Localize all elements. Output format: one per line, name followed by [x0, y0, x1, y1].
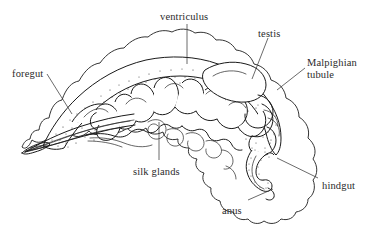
label-anus: anus [222, 205, 242, 217]
label-hindgut: hindgut [322, 180, 355, 192]
anatomy-figure: ventriculus testis Malpighian tubule for… [0, 0, 385, 229]
label-foregut: foregut [12, 68, 43, 80]
label-malpighian-tubule: Malpighian tubule [307, 57, 379, 80]
label-testis: testis [258, 28, 281, 40]
label-silk-glands: silk glands [133, 166, 180, 178]
anatomy-illustration [0, 0, 385, 229]
leader-malpighian-tubule [277, 68, 305, 90]
silk-gland-strand-2 [88, 141, 122, 147]
silk-gland-strand-1 [90, 138, 152, 147]
label-ventriculus: ventriculus [160, 11, 208, 23]
